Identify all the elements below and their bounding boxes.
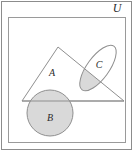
venn-diagram-figure: U A B C (0, 0, 133, 151)
set-b-label: B (47, 112, 53, 123)
set-c-label: C (96, 59, 103, 70)
venn-diagram-canvas: U A B C (0, 0, 133, 151)
universe-label: U (113, 1, 123, 15)
set-a-label: A (48, 67, 56, 78)
